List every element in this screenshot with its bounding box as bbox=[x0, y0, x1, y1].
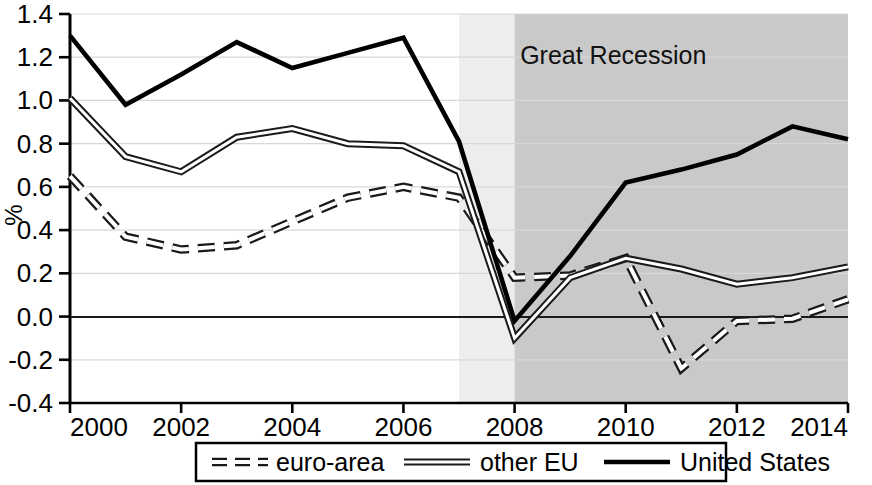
legend: euro-areaother EUUnited States bbox=[212, 448, 830, 476]
y-tick-label: 1.2 bbox=[17, 42, 53, 72]
x-tick-label: 2014 bbox=[790, 412, 848, 442]
y-tick-label: -0.4 bbox=[8, 388, 53, 418]
line-chart: 1.41.21.00.80.60.40.20.0-0.2-0.4 2000200… bbox=[0, 0, 872, 485]
y-axis-title: % bbox=[0, 204, 27, 225]
legend-label: other EU bbox=[480, 448, 579, 476]
x-tick-label: 2008 bbox=[486, 412, 544, 442]
x-tick-label: 2012 bbox=[708, 412, 766, 442]
x-tick-label: 2004 bbox=[263, 412, 321, 442]
y-tick-label: 0.6 bbox=[17, 172, 53, 202]
shaded-regions bbox=[459, 14, 848, 403]
x-tick-label: 2006 bbox=[375, 412, 433, 442]
chart-figure: 1.41.21.00.80.60.40.20.0-0.2-0.4 2000200… bbox=[0, 0, 872, 485]
annotation-label: Great Recession bbox=[520, 41, 706, 69]
y-tick-label: 0.2 bbox=[17, 258, 53, 288]
x-tick-label: 2010 bbox=[597, 412, 655, 442]
y-tick-label: 0.0 bbox=[17, 302, 53, 332]
y-tick-label: 0.8 bbox=[17, 129, 53, 159]
legend-label: euro-area bbox=[276, 448, 384, 476]
y-tick-label: 1.4 bbox=[17, 0, 53, 29]
shaded-region bbox=[515, 14, 848, 403]
y-tick-label: -0.2 bbox=[8, 345, 53, 375]
y-tick-label: 1.0 bbox=[17, 85, 53, 115]
x-axis-ticks: 20002002200420062008201020122014 bbox=[70, 403, 848, 442]
chart-annotations: Great Recession bbox=[520, 41, 706, 69]
x-tick-label: 2000 bbox=[70, 412, 128, 442]
legend-label: United States bbox=[680, 448, 830, 476]
x-tick-label: 2002 bbox=[152, 412, 210, 442]
